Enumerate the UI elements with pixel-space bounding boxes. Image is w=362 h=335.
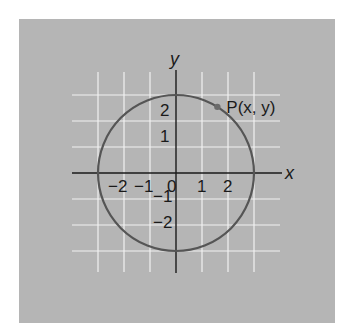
y-tick-label: 2 <box>160 101 169 120</box>
circle-diagram: P(x, y) x y −2−1012 21−1−2 <box>0 0 362 335</box>
x-axis-label: x <box>284 163 295 183</box>
x-tick-label: −2 <box>108 177 127 196</box>
y-tick-label: −1 <box>153 187 172 206</box>
x-tick-label: 2 <box>223 177 232 196</box>
y-tick-label: −2 <box>153 213 172 232</box>
y-axis-label: y <box>168 49 180 69</box>
y-tick-label: 1 <box>160 127 169 146</box>
x-tick-label: 1 <box>197 177 206 196</box>
point-p-marker <box>214 104 220 110</box>
point-p-label: P(x, y) <box>226 98 275 117</box>
x-tick-label: −1 <box>134 177 153 196</box>
